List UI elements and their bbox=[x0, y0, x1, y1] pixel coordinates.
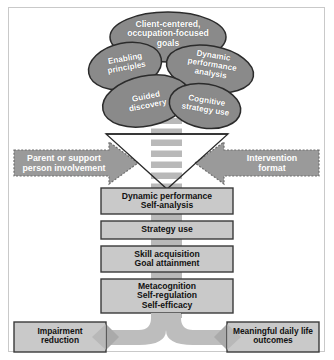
outcome-boxes-layer bbox=[0, 0, 334, 360]
figure-canvas: Client-centered, occupation-focused goal… bbox=[0, 0, 334, 360]
